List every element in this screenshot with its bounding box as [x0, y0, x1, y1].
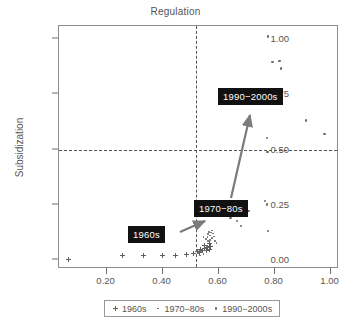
scatter-plot-figure: Regulation Subsidization 0.000.250.500.7… — [0, 0, 351, 327]
annotation-label: 1970−80s — [194, 200, 248, 217]
data-point-1970-80s — [211, 237, 213, 239]
y-tick-label: 1.00 — [271, 33, 290, 44]
data-point-1960s — [198, 247, 203, 252]
data-point-1960s — [66, 257, 71, 262]
data-point-1970-80s — [198, 253, 200, 255]
data-point-1970-80s — [209, 235, 211, 237]
y-tick-mark — [52, 148, 58, 149]
data-point-1990-2000s — [240, 225, 242, 227]
data-point-1960s — [195, 249, 200, 254]
data-point-1990-2000s — [229, 217, 231, 219]
data-point-1960s — [202, 246, 207, 251]
data-point-1960s — [204, 248, 209, 253]
data-point-1970-80s — [213, 236, 215, 238]
data-point-1970-80s — [207, 233, 209, 235]
data-point-1990-2000s — [280, 67, 282, 69]
legend-entry[interactable]: 1990−2000s — [212, 304, 272, 314]
chart-legend: 1960s1970−80s1990−2000s — [104, 300, 280, 317]
legend-label: 1990−2000s — [222, 304, 272, 314]
data-point-1970-80s — [201, 251, 203, 253]
data-point-1970-80s — [208, 231, 210, 233]
data-point-1990-2000s — [266, 137, 268, 139]
data-point-1960s — [202, 243, 207, 248]
data-point-1960s — [200, 248, 205, 253]
data-point-1960s — [141, 253, 146, 258]
gridline-vertical — [196, 26, 197, 267]
x-tick-mark — [330, 268, 331, 274]
data-point-1960s — [207, 241, 212, 246]
legend-entry[interactable]: 1970−80s — [155, 304, 205, 314]
x-tick-label: 0.40 — [152, 275, 171, 286]
data-point-1990-2000s — [266, 151, 268, 153]
chart-title: Regulation — [0, 6, 351, 17]
legend-dot-icon — [215, 307, 218, 310]
data-point-1990-2000s — [278, 60, 280, 62]
legend-label: 1970−80s — [165, 304, 205, 314]
data-point-1970-80s — [207, 240, 209, 242]
data-point-1970-80s — [212, 233, 214, 235]
data-point-1990-2000s — [266, 203, 268, 205]
data-point-1960s — [173, 253, 178, 258]
data-point-1990-2000s — [271, 61, 273, 63]
data-point-1990-2000s — [236, 220, 238, 222]
data-point-1990-2000s — [323, 133, 325, 135]
data-point-1990-2000s — [267, 35, 269, 37]
plot-frame — [58, 25, 338, 268]
data-point-1960s — [160, 253, 165, 258]
x-tick-mark — [218, 268, 219, 274]
y-tick-label: 0.50 — [271, 143, 290, 154]
y-tick-mark — [52, 203, 58, 204]
y-tick-mark — [52, 259, 58, 260]
data-point-1970-80s — [203, 236, 205, 238]
y-tick-mark — [52, 38, 58, 39]
data-point-1990-2000s — [247, 210, 249, 212]
x-tick-mark — [106, 268, 107, 274]
y-tick-mark — [52, 93, 58, 94]
data-point-1970-80s — [199, 255, 201, 257]
legend-label: 1960s — [122, 304, 147, 314]
data-point-1970-80s — [207, 236, 209, 238]
x-tick-label: 0.20 — [96, 275, 115, 286]
data-point-1970-80s — [205, 238, 207, 240]
data-point-1970-80s — [216, 242, 218, 244]
data-point-1970-80s — [206, 245, 208, 247]
data-point-1970-80s — [203, 253, 205, 255]
x-tick-label: 1.00 — [320, 275, 339, 286]
x-tick-label: 0.80 — [264, 275, 283, 286]
legend-marker-icon — [112, 305, 119, 312]
x-tick-label: 0.60 — [208, 275, 227, 286]
legend-marker-icon — [155, 305, 162, 312]
legend-dot-icon — [157, 308, 159, 310]
data-point-1960s — [207, 247, 212, 252]
legend-marker-icon — [212, 305, 219, 312]
data-point-1970-80s — [214, 240, 216, 242]
gridline-horizontal — [59, 150, 337, 151]
data-point-1960s — [197, 250, 202, 255]
plot-area — [59, 26, 337, 267]
legend-entry[interactable]: 1960s — [112, 304, 147, 314]
y-axis-label: Subsidization — [14, 78, 25, 218]
x-tick-mark — [162, 268, 163, 274]
annotation-label: 1990−2000s — [218, 88, 283, 105]
data-point-1960s — [191, 251, 196, 256]
data-point-1990-2000s — [267, 230, 269, 232]
data-point-1960s — [205, 245, 210, 250]
data-point-1960s — [208, 244, 213, 249]
data-point-1960s — [120, 253, 125, 258]
data-point-1970-80s — [209, 239, 211, 241]
data-point-1970-80s — [204, 250, 206, 252]
y-tick-label: 0.25 — [271, 198, 290, 209]
data-point-1970-80s — [210, 232, 212, 234]
data-point-1960s — [184, 252, 189, 257]
data-point-1990-2000s — [305, 119, 307, 121]
annotation-label: 1960s — [128, 226, 165, 243]
data-point-1970-80s — [211, 230, 213, 232]
data-point-1990-2000s — [264, 200, 266, 202]
y-tick-label: 0.00 — [271, 254, 290, 265]
x-tick-mark — [274, 268, 275, 274]
